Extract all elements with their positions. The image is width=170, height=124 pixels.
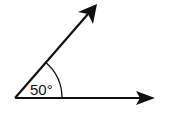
angle-label: 50° [30, 81, 53, 98]
angle-diagram: 50° [0, 0, 170, 124]
